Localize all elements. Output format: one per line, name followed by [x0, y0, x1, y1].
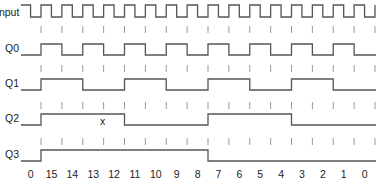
- signal-labels: InputQ0Q1Q2Q3: [0, 6, 19, 160]
- signal-label-input: Input: [0, 6, 19, 18]
- counter-value: 9: [174, 168, 180, 180]
- counter-value-axis: 01514131211109876543210: [28, 168, 368, 180]
- waveform-q2: [21, 114, 376, 125]
- counter-value: 15: [46, 168, 58, 180]
- waveform-q0: [21, 44, 376, 55]
- counter-value: 12: [108, 168, 120, 180]
- signal-label-q0: Q0: [5, 42, 19, 54]
- signal-label-q3: Q3: [5, 148, 19, 160]
- counter-value: 0: [362, 168, 368, 180]
- counter-value: 8: [195, 168, 201, 180]
- counter-value: 2: [320, 168, 326, 180]
- signal-label-q1: Q1: [5, 77, 19, 89]
- counter-value: 0: [28, 168, 34, 180]
- waveform-input: [21, 5, 375, 17]
- counter-value: 5: [257, 168, 263, 180]
- counter-value: 1: [341, 168, 347, 180]
- waveforms: [21, 5, 376, 161]
- counter-value: 3: [299, 168, 305, 180]
- counter-value: 6: [236, 168, 242, 180]
- counter-value: 10: [150, 168, 162, 180]
- annotation-x-mark: x: [100, 115, 106, 127]
- timing-diagram: InputQ0Q1Q2Q3 01514131211109876543210 x: [0, 0, 381, 182]
- counter-value: 7: [216, 168, 222, 180]
- counter-value: 11: [130, 168, 141, 180]
- counter-value: 14: [67, 168, 79, 180]
- counter-value: 4: [278, 168, 284, 180]
- signal-label-q2: Q2: [5, 112, 19, 124]
- counter-value: 13: [87, 168, 99, 180]
- waveform-q1: [21, 79, 376, 90]
- waveform-q3: [21, 150, 376, 161]
